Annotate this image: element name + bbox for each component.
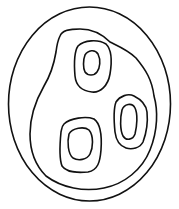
bottom-loop-inner xyxy=(68,128,92,160)
right-loop-inner xyxy=(121,104,137,139)
nested-curves-diagram xyxy=(0,0,179,209)
right-loop-outer xyxy=(114,95,147,149)
bottom-loop-outer xyxy=(60,118,101,173)
top-loop-outer xyxy=(74,41,111,92)
inner-region xyxy=(30,29,157,190)
top-loop-inner xyxy=(84,51,100,75)
